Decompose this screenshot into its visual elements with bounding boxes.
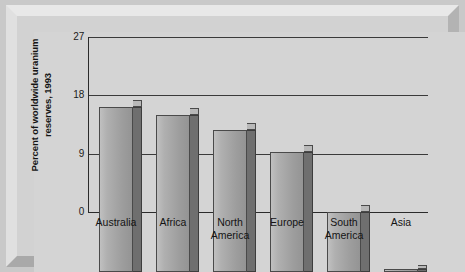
y-tick-label-27: 27 [58,31,84,42]
bar-top-face [133,100,142,107]
y-axis-title: Percent of worldwide uranium reserves, 1… [28,20,54,190]
bar-chart: Percent of worldwide uranium reserves, 1… [0,0,465,272]
bar-side-face [190,115,199,272]
bar-top-face [247,123,256,130]
x-label-line-1: North [217,216,243,228]
x-label-line-2: America [211,229,250,241]
bar-front-face [270,152,304,272]
bar-top-face [361,205,370,212]
gridline-27 [88,37,428,38]
x-label-asia: Asia [364,216,438,229]
y-axis-title-line-2: reserves, 1993 [42,73,53,137]
x-label-line-1: South [330,216,357,228]
x-label-line-1: Asia [391,216,411,228]
y-axis-title-line-1: Percent of worldwide uranium [29,39,40,172]
x-label-line-2: America [325,229,364,241]
y-tick-label-18: 18 [58,89,84,100]
bar-side-face [304,152,313,272]
y-tick-label-9: 9 [58,148,84,159]
bar-side-face [247,130,256,272]
bar-front-face [99,107,133,272]
figure-frame: Percent of worldwide uranium reserves, 1… [0,0,465,272]
bar-top-face [304,145,313,152]
x-label-line-1: Europe [270,216,304,228]
bar-top-face [190,108,199,115]
gridline-18 [88,95,428,96]
bar-front-face [213,130,247,272]
x-label-line-1: Australia [96,216,137,228]
x-label-line-1: Africa [160,216,187,228]
bar-side-face [133,107,142,272]
bar-front-face [156,115,190,272]
y-axis-line [88,37,89,213]
